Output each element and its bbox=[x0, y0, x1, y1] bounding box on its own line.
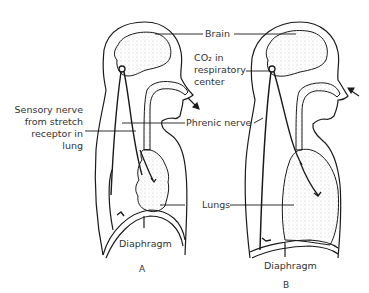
label-sensory-line4: lung bbox=[62, 140, 83, 152]
panel-label-b: B bbox=[283, 280, 289, 290]
figure-b bbox=[245, 22, 348, 258]
label-brain: Brain bbox=[205, 28, 230, 40]
label-sensory-line2: from stretch bbox=[25, 116, 83, 128]
label-phrenic-nerve: Phrenic nerve bbox=[186, 117, 251, 129]
figure-b-diaphragm bbox=[250, 240, 338, 252]
panel-label-a: A bbox=[139, 264, 145, 274]
figure-a-brain bbox=[114, 32, 170, 76]
label-sensory-line1: Sensory nerve bbox=[15, 104, 83, 116]
label-lungs: Lungs bbox=[202, 199, 230, 211]
figure-a bbox=[95, 22, 193, 258]
label-sensory-line3: receptor in bbox=[31, 128, 83, 140]
label-diaphragm-a: Diaphragm bbox=[119, 238, 172, 250]
label-co2-line1: CO₂ in bbox=[194, 52, 224, 64]
figure-a-airway bbox=[144, 81, 188, 150]
respiration-diagram bbox=[0, 0, 369, 293]
label-co2-line2: respiratory bbox=[194, 64, 246, 76]
label-diaphragm-b: Diaphragm bbox=[264, 260, 317, 272]
figure-b-lung bbox=[282, 149, 338, 245]
label-co2-line3: center bbox=[194, 76, 225, 88]
